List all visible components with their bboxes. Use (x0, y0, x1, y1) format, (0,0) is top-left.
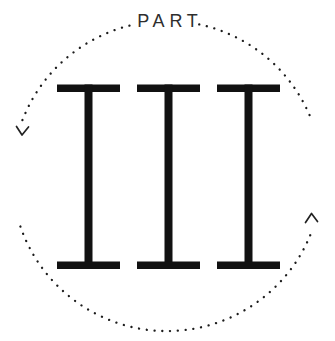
chevron-up-arrow-icon (306, 214, 318, 223)
numeral-glyph-i (137, 85, 200, 270)
numeral-glyph-i (217, 85, 280, 270)
part-badge-graphic (0, 0, 335, 341)
roman-numeral (57, 85, 280, 270)
dotted-arc-top-left (22, 26, 129, 121)
numeral-glyph-i (57, 85, 120, 270)
page: PART (0, 0, 335, 341)
dotted-arc-top-right (199, 24, 312, 120)
chevron-down-arrow-icon (17, 127, 29, 136)
